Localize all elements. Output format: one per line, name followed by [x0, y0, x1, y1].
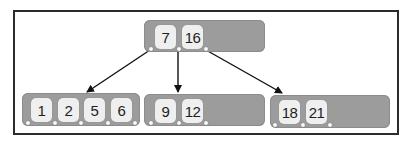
key-cell: 7 — [155, 25, 176, 49]
pointer-dot-icon — [106, 121, 110, 125]
key-cell: 21 — [306, 100, 327, 124]
pointer-dot-icon — [273, 123, 277, 127]
key-value: 18 — [282, 104, 298, 121]
key-value: 1 — [38, 102, 46, 119]
pointer-dot-icon — [177, 121, 181, 125]
pointer-dot-icon — [177, 47, 181, 51]
key-value: 12 — [185, 103, 201, 120]
pointer-dot-icon — [328, 123, 332, 127]
pointer-dot-icon — [204, 47, 208, 51]
key-cell: 16 — [182, 25, 203, 49]
key-value: 6 — [118, 102, 126, 119]
pointer-dot-icon — [149, 47, 153, 51]
key-value: 2 — [65, 102, 73, 119]
leaf-node-left: 1 2 5 6 — [22, 93, 140, 126]
key-cell: 18 — [279, 100, 300, 124]
pointer-dot-icon — [53, 121, 57, 125]
key-value: 9 — [162, 103, 170, 120]
key-cell: 6 — [111, 98, 132, 122]
key-value: 16 — [185, 29, 201, 46]
pointer-dot-icon — [79, 121, 83, 125]
pointer-dot-icon — [204, 121, 208, 125]
pointer-dot-icon — [133, 121, 137, 125]
key-cell: 5 — [84, 98, 105, 122]
root-node: 7 16 — [144, 20, 265, 52]
pointer-dot-icon — [149, 121, 153, 125]
key-cell: 9 — [155, 99, 176, 123]
key-cell: 12 — [182, 99, 203, 123]
key-value: 5 — [91, 102, 99, 119]
key-cell: 2 — [58, 98, 79, 122]
leaf-node-right: 18 21 — [270, 95, 390, 128]
key-cell: 1 — [31, 98, 52, 122]
pointer-dot-icon — [301, 123, 305, 127]
leaf-node-middle: 9 12 — [144, 94, 265, 126]
key-value: 7 — [162, 29, 170, 46]
pointer-dot-icon — [26, 121, 30, 125]
key-value: 21 — [309, 104, 325, 121]
